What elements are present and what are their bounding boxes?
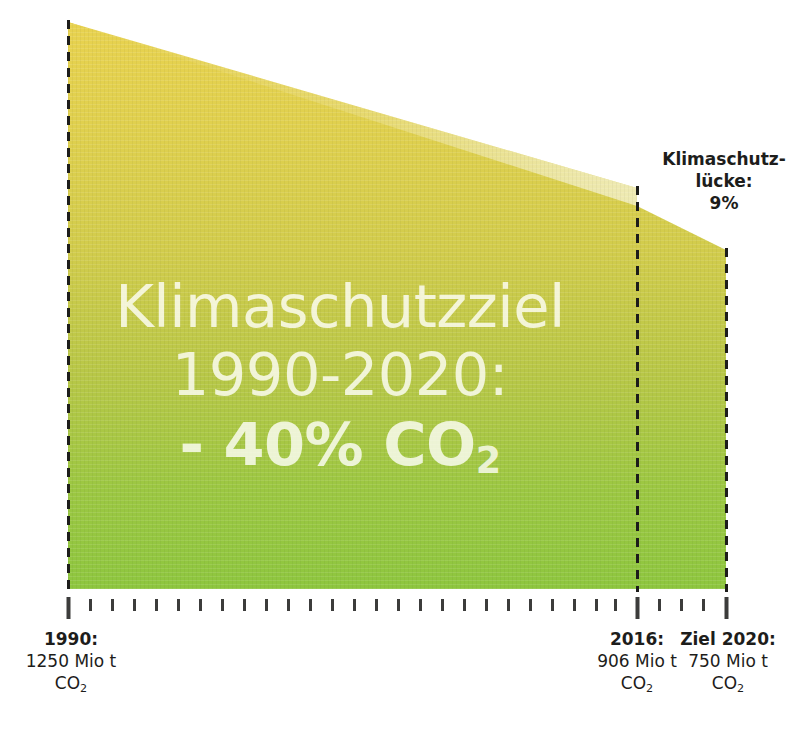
axis-label-2020-value: 750 Mio t	[664, 650, 792, 672]
axis-label-1990-unit-sub: 2	[80, 682, 87, 695]
axis-label-1990-unit-text: CO	[55, 673, 80, 693]
axis-label-2020-unit-text: CO	[712, 673, 737, 693]
axis-label-1990-unit: CO2	[8, 672, 134, 694]
axis-label-2020-unit-sub: 2	[737, 682, 744, 695]
axis-label-2020: Ziel 2020: 750 Mio t CO2	[664, 628, 792, 694]
tick-minor-group	[91, 599, 704, 611]
chart-canvas	[0, 0, 806, 736]
infographic-root: Klimaschutzziel 1990-2020: - 40% CO2 Kli…	[0, 0, 806, 736]
axis-label-2020-title: Ziel 2020:	[664, 628, 792, 650]
axis-label-2016-unit-sub: 2	[646, 682, 653, 695]
axis-label-1990-value: 1250 Mio t	[8, 650, 134, 672]
axis-label-2020-unit: CO2	[664, 672, 792, 694]
axis-label-2016-unit-text: CO	[621, 673, 646, 693]
axis-ticks	[69, 597, 727, 619]
axis-label-1990-title: 1990:	[8, 628, 134, 650]
axis-label-1990: 1990: 1250 Mio t CO2	[8, 628, 134, 694]
area-actual-emissions	[68, 22, 726, 589]
